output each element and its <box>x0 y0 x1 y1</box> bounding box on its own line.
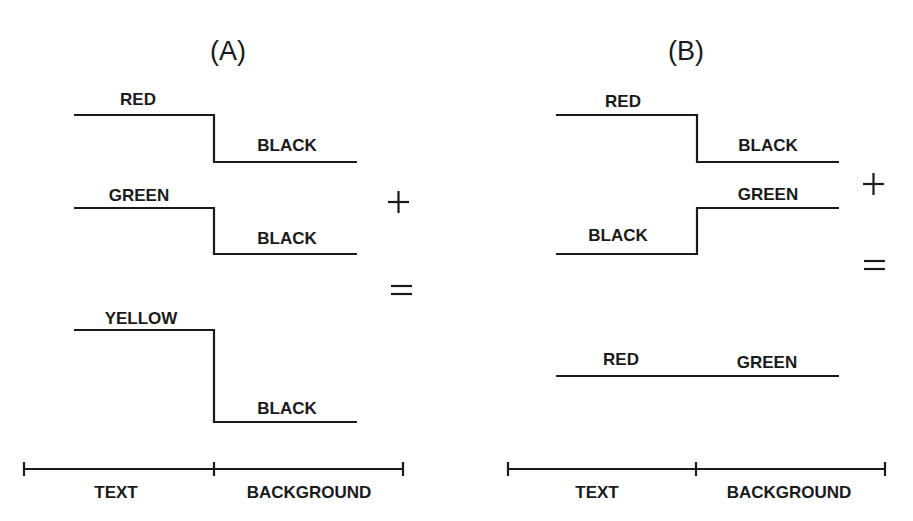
axis-background-label: BACKGROUND <box>247 483 372 502</box>
background-color-label: GREEN <box>738 185 798 204</box>
axis-text-label: TEXT <box>575 483 619 502</box>
text-color-label: RED <box>120 90 156 109</box>
text-color-label: BLACK <box>588 226 648 245</box>
axis-text-label: TEXT <box>94 483 138 502</box>
background-color-label: BLACK <box>257 229 317 248</box>
plus-operator <box>863 173 884 195</box>
background-color-label: BLACK <box>257 136 317 155</box>
panel-a-title: (A) <box>210 36 246 66</box>
equals-operator <box>864 261 885 269</box>
text-color-label: YELLOW <box>105 309 179 328</box>
panel-b-row-1: RED BLACK <box>556 92 839 162</box>
panel-a-axis: TEXT BACKGROUND <box>24 462 403 502</box>
plus-operator <box>388 191 409 213</box>
panel-a: (A) RED BLACK GREEN BLACK YELLOW BLACK <box>0 0 412 502</box>
panel-b-row-3: RED GREEN <box>556 350 839 376</box>
panel-a-row-3: YELLOW BLACK <box>74 309 357 422</box>
equals-operator <box>391 286 412 294</box>
panel-a-row-1: RED BLACK <box>74 90 357 162</box>
panel-b-title: (B) <box>668 36 704 66</box>
text-color-label: GREEN <box>109 186 169 205</box>
panel-b-axis: TEXT BACKGROUND <box>508 462 885 502</box>
background-color-label: BLACK <box>257 399 317 418</box>
panel-b: (B) RED BLACK BLACK GREEN RED GREEN + <box>0 0 885 502</box>
text-color-label: RED <box>605 92 641 111</box>
color-luminance-diagram: (A) RED BLACK GREEN BLACK YELLOW BLACK <box>0 0 913 521</box>
background-color-label: BLACK <box>738 136 798 155</box>
axis-background-label: BACKGROUND <box>727 483 852 502</box>
panel-b-row-2: BLACK GREEN <box>556 185 839 254</box>
background-color-label: GREEN <box>737 353 797 372</box>
text-color-label: RED <box>603 350 639 369</box>
panel-a-row-2: GREEN BLACK <box>74 186 357 254</box>
